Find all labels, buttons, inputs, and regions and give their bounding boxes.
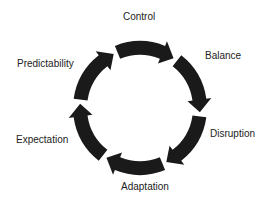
cycle-diagram [0,0,267,201]
arrow-adaptation [106,153,165,175]
arrow-expectation [69,104,108,161]
stage-label-adaptation: Adaptation [121,181,169,192]
arrow-control [115,41,174,63]
stage-label-control: Control [123,11,155,22]
arrow-balance [173,55,212,112]
stage-label-predictability: Predictability [17,58,74,69]
arrow-predictability [74,51,114,100]
stage-label-expectation: Expectation [16,134,68,145]
stage-label-balance: Balance [205,50,241,61]
arrow-disruption [166,115,206,164]
stage-label-disruption: Disruption [210,128,255,139]
